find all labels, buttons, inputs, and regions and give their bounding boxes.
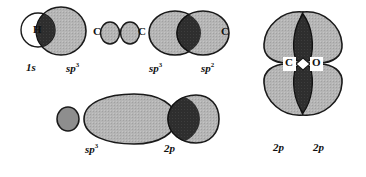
atom-label-c-3: C <box>221 26 229 37</box>
orbital-label-sp2: sp2 <box>201 62 214 74</box>
orbital-label-sp3-a: sp3 <box>66 62 79 74</box>
orbital-label-2p-b: 2p <box>273 142 284 153</box>
structure-sp3-2p-sigma <box>57 94 219 144</box>
sp3-back-lobe-small <box>57 107 79 131</box>
structure-sp3-sp2-sigma <box>149 11 229 55</box>
structure-h-sp3 <box>21 7 86 55</box>
structure-sp3-back-lobes <box>101 22 140 44</box>
orbital-label-1s: 1s <box>26 62 36 73</box>
sp3-small-lobe-right <box>121 22 140 44</box>
atom-label-c-2: C <box>138 26 146 37</box>
atom-label-h: H <box>33 24 42 35</box>
orbital-label-1s-text: 1s <box>26 61 36 73</box>
sp3-small-lobe-left <box>101 22 120 44</box>
atom-label-c-1: C <box>93 26 101 37</box>
atom-label-o: O <box>312 57 321 68</box>
orbital-label-2p-c: 2p <box>313 142 324 153</box>
sp3-front-lobe <box>84 94 176 144</box>
orbital-label-sp3-b: sp3 <box>149 62 162 74</box>
orbital-label-sp3-c: sp3 <box>85 143 98 155</box>
atom-label-c-4: C <box>285 57 293 68</box>
orbital-overlap-diagram <box>0 0 366 177</box>
orbital-label-2p-a: 2p <box>164 143 175 154</box>
structure-co-pi-bond <box>264 12 342 115</box>
